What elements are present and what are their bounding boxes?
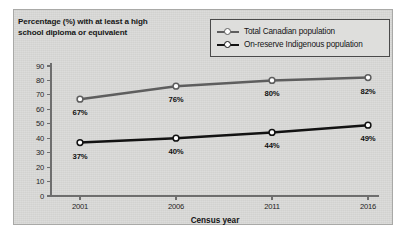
series-line-1 [80, 125, 368, 142]
y-axis-tick-label: 80 [24, 76, 44, 85]
x-axis-tick-label: 2011 [252, 202, 292, 211]
y-axis-tick-label: 20 [24, 163, 44, 172]
y-axis-tick-label: 30 [24, 148, 44, 157]
data-point-marker[interactable] [173, 83, 179, 89]
y-axis-tick-label: 50 [24, 119, 44, 128]
series-line-0 [80, 78, 368, 100]
data-point-marker[interactable] [365, 75, 371, 81]
data-point-marker[interactable] [269, 130, 275, 136]
series-group [77, 75, 371, 146]
x-axis-title: Census year [155, 216, 275, 225]
data-point-label: 49% [348, 134, 388, 143]
x-axis-tick-label: 2016 [348, 202, 388, 211]
plot-area: 0102030405060708090 2001200620112016 67%… [13, 9, 393, 225]
y-axis-tick-label: 10 [24, 177, 44, 186]
y-axis-tick-label: 0 [24, 192, 44, 201]
data-point-label: 67% [60, 108, 100, 117]
data-point-marker[interactable] [365, 122, 371, 128]
x-axis-tick-label: 2006 [156, 202, 196, 211]
data-point-label: 37% [60, 152, 100, 161]
y-axis-tick-label: 70 [24, 90, 44, 99]
data-point-marker[interactable] [173, 135, 179, 141]
data-point-marker[interactable] [77, 96, 83, 102]
data-point-marker[interactable] [77, 140, 83, 146]
y-axis-tick-label: 40 [24, 134, 44, 143]
chart-figure: Percentage (%) with at least a high scho… [0, 0, 407, 242]
data-point-marker[interactable] [269, 78, 275, 84]
data-point-label: 44% [252, 141, 292, 150]
y-axis-tick-label: 60 [24, 105, 44, 114]
data-point-label: 80% [252, 89, 292, 98]
data-point-label: 76% [156, 95, 196, 104]
data-point-label: 40% [156, 147, 196, 156]
y-axis-tick-label: 90 [24, 62, 44, 71]
data-point-label: 82% [348, 87, 388, 96]
x-axis-tick-label: 2001 [60, 202, 100, 211]
